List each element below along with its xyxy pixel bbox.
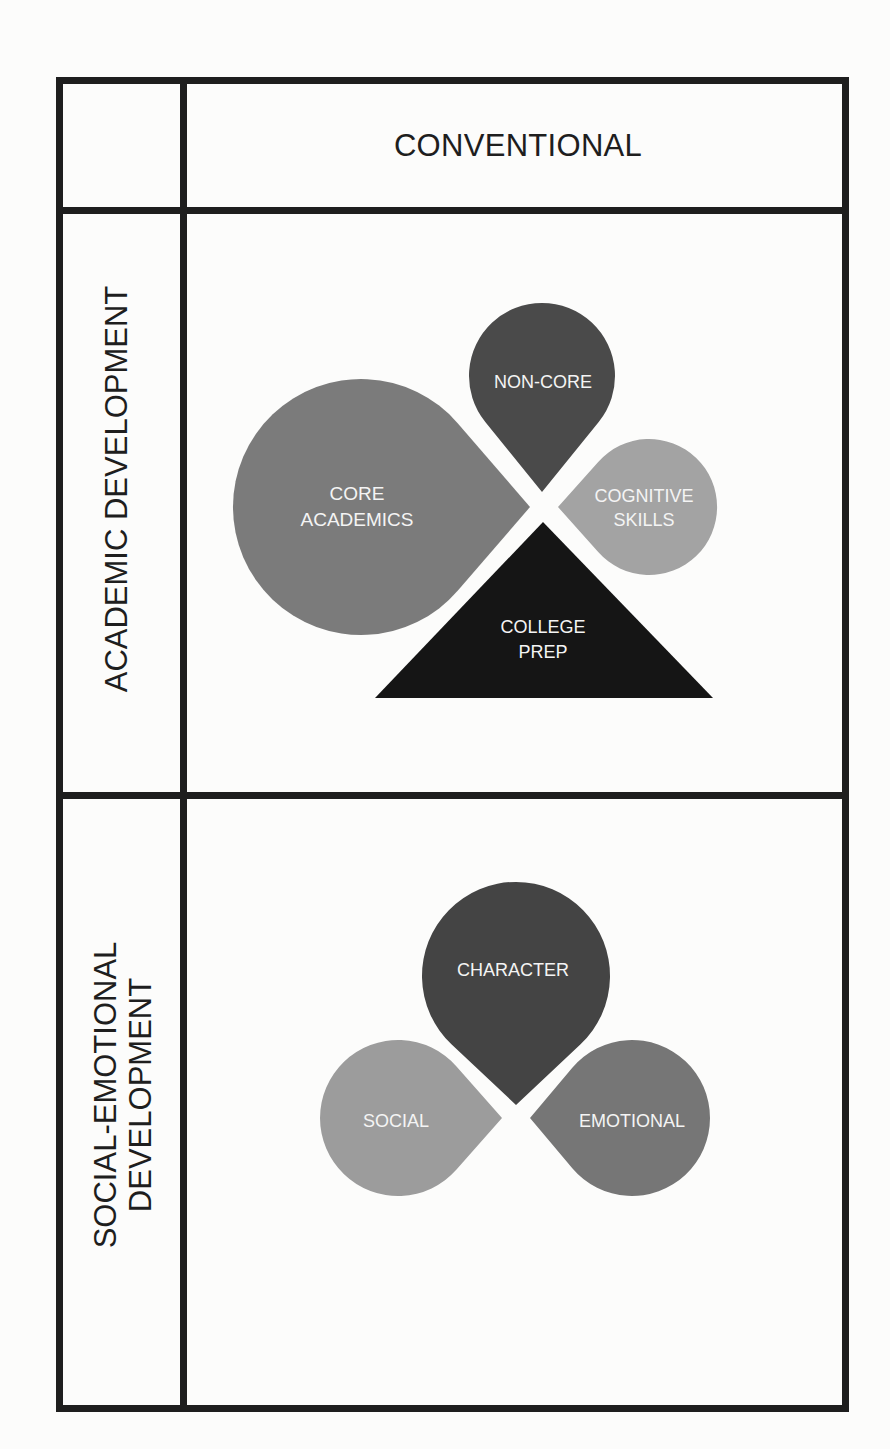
cognitive-skills-label-line1: COGNITIVE: [594, 486, 693, 506]
character-label: CHARACTER: [457, 960, 569, 980]
social-label: SOCIAL: [363, 1111, 429, 1131]
non-core-label: NON-CORE: [494, 372, 592, 392]
shape-cognitive-skills: COGNITIVE SKILLS: [558, 439, 717, 575]
cognitive-skills-label-line2: SKILLS: [613, 510, 674, 530]
core-academics-label-line2: ACADEMICS: [301, 509, 414, 530]
diagram-canvas: CORE ACADEMICS NON-CORE COGNITIVE SKILLS…: [0, 0, 890, 1449]
core-academics-label-line1: CORE: [330, 483, 385, 504]
emotional-label: EMOTIONAL: [579, 1111, 685, 1131]
college-prep-label-line1: COLLEGE: [500, 617, 585, 637]
college-prep-label-line2: PREP: [518, 642, 567, 662]
cognitive-skills-teardrop: [558, 439, 717, 575]
